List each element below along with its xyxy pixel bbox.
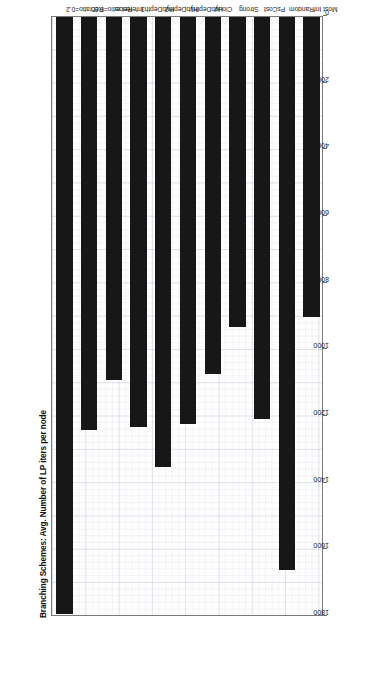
bar-slot [279, 17, 295, 616]
axis-tick-label: 600 [317, 209, 329, 216]
bar[interactable] [81, 17, 97, 430]
plot-wrapper: Most InfRandomPsCostStrongCloudHybDepth1… [51, 16, 323, 616]
category-label: Random [289, 6, 314, 13]
bar-slot [254, 17, 270, 616]
axis-tick-label: 1000 [313, 342, 329, 349]
bar[interactable] [229, 17, 245, 327]
category-label: HybDepth3 [141, 6, 174, 13]
bar[interactable] [155, 17, 171, 467]
bar[interactable] [130, 17, 146, 427]
bar-slot [106, 17, 122, 616]
axis-tick-label: 200 [317, 76, 329, 83]
bar-series [52, 17, 322, 615]
axis-tick-label: 1800 [313, 609, 329, 616]
axis-tick-label: 1200 [313, 409, 329, 416]
category-label: Cloud [215, 6, 232, 13]
bar-slot [81, 17, 97, 616]
category-label: Inference [116, 6, 144, 13]
bar[interactable] [303, 17, 319, 317]
bar-slot [155, 17, 171, 616]
plot-area [51, 16, 323, 616]
bar-slot [205, 17, 221, 616]
value-axis: 180016001400120010008006004002000 [323, 16, 357, 616]
figure-page: Branching Schemes: Avg. Number of LP ite… [0, 0, 387, 698]
bar[interactable] [106, 17, 122, 380]
bar-slot [130, 17, 146, 616]
axis-tick-label: 1400 [313, 476, 329, 483]
category-label: HybDepth2 [165, 6, 198, 13]
axis-tick-label: 1600 [313, 542, 329, 549]
bar-slot [303, 17, 319, 616]
bar-slot [180, 17, 196, 616]
bar[interactable] [279, 17, 295, 570]
axis-tick-label: 400 [317, 142, 329, 149]
category-label: Rel ratio=0.05 [91, 6, 132, 13]
bar-slot [56, 17, 72, 616]
axis-tick-label: 0 [325, 9, 329, 16]
chart-title: Branching Schemes: Avg. Number of LP ite… [39, 0, 48, 618]
category-label: Rel ratio=0.2 [66, 6, 104, 13]
category-label: PsCost [264, 6, 285, 13]
category-label: HybDepth1 [190, 6, 223, 13]
bar[interactable] [56, 17, 72, 614]
category-label: Strong [239, 6, 258, 13]
bar-slot [229, 17, 245, 616]
axis-tick-label: 800 [317, 276, 329, 283]
bar[interactable] [180, 17, 196, 424]
bar-chart: Branching Schemes: Avg. Number of LP ite… [39, 0, 349, 620]
bar[interactable] [254, 17, 270, 419]
bar[interactable] [205, 17, 221, 374]
